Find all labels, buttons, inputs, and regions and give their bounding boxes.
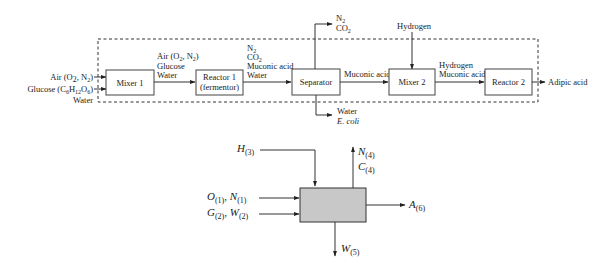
separator-liquid-outlet-arrow xyxy=(316,95,332,115)
process-block xyxy=(300,188,366,222)
stream-r1-sep-line4: Water xyxy=(247,70,267,80)
h3-input-arrow xyxy=(260,150,315,186)
input-h3-label: H(3) xyxy=(236,142,255,157)
stream-sep-bottom-line2: E. coli xyxy=(336,116,360,126)
stream-m2-r2-line2: Muconic acid xyxy=(439,69,486,79)
process-flow-diagram: Air (O2, N2) Glucose (C6H12O6) Water Mix… xyxy=(0,0,616,266)
stream-m1-r1-line2: Glucose xyxy=(157,61,185,71)
reactor-2-unit: Reactor 2 xyxy=(485,69,532,95)
stream-sep-top-line2: CO2 xyxy=(336,23,351,34)
reactor-2-label: Reactor 2 xyxy=(492,77,525,87)
reactor-1-sublabel: (fermentor) xyxy=(200,82,239,92)
separator-gas-outlet-arrow xyxy=(315,24,332,69)
output-n4-label: N(4) xyxy=(357,145,375,160)
reactor-1-label: Reactor 1 xyxy=(203,72,236,82)
mixer-2-unit: Mixer 2 xyxy=(389,69,435,95)
stream-sep-m2-label: Muconic acid xyxy=(344,69,391,79)
reactor-1-unit: Reactor 1 (fermentor) xyxy=(196,70,243,95)
output-a6-label: A(6) xyxy=(408,198,425,213)
mixer-1-label: Mixer 1 xyxy=(116,78,143,88)
hydrogen-input-label: Hydrogen xyxy=(397,21,432,31)
input-water-label: Water xyxy=(73,95,93,105)
output-w5-label: W(5) xyxy=(341,242,360,257)
input-o1-n1-label: O(1), N(1) xyxy=(207,190,247,205)
stream-m1-r1-line3: Water xyxy=(157,70,177,80)
input-air-label: Air (O2, N2) xyxy=(50,72,93,84)
separator-label: Separator xyxy=(300,77,333,87)
mixer-1-unit: Mixer 1 xyxy=(106,70,154,95)
stream-sep-bottom-line1: Water xyxy=(337,106,357,116)
input-glucose-label: Glucose (C6H12O6) xyxy=(27,84,93,95)
separator-unit: Separator xyxy=(292,69,340,95)
output-c4-label: C(4) xyxy=(358,160,375,175)
mixer-2-label: Mixer 2 xyxy=(398,77,425,87)
product-label: Adipic acid xyxy=(548,77,588,87)
input-g2-w2-label: G(2), W(2) xyxy=(207,206,249,221)
